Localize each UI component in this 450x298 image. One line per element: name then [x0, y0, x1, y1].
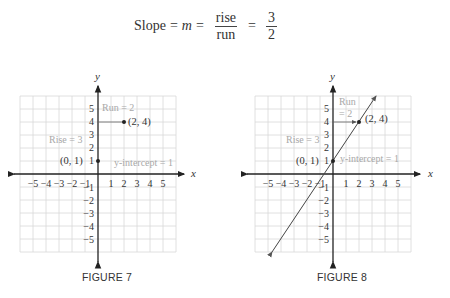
x-tick: 2	[357, 178, 362, 189]
y-tick: −5	[83, 234, 94, 245]
x-tick: 4	[148, 178, 153, 189]
run-label: Run = 2	[102, 102, 134, 113]
point-0-1	[331, 159, 335, 163]
point-2-4-label: (2, 4)	[365, 113, 388, 125]
x-tick: −3	[289, 178, 300, 189]
x-tick: −5	[28, 178, 39, 189]
x-tick: 1	[344, 178, 349, 189]
figure-8-caption: FIGURE 8	[317, 271, 367, 283]
run-label-line1: Run	[339, 96, 356, 107]
y-tick: 1	[324, 155, 329, 166]
x-tick: −3	[54, 178, 65, 189]
figure-7-caption: FIGURE 7	[82, 271, 132, 283]
y-intercept-label: y-intercept = 1	[114, 157, 173, 168]
y-tick: −2	[318, 195, 329, 206]
y-tick: −3	[83, 208, 94, 219]
y-tick: −4	[318, 221, 329, 232]
point-2-4	[122, 120, 126, 124]
y-tick: 4	[89, 116, 94, 127]
y-tick: 2	[89, 142, 94, 153]
y-axis-label: y	[94, 70, 100, 82]
point-2-4	[357, 120, 361, 124]
x-tick: −5	[263, 178, 274, 189]
x-tick: −2	[67, 178, 78, 189]
x-tick: 5	[396, 178, 401, 189]
x-tick: −2	[302, 178, 313, 189]
y-tick: −2	[83, 195, 94, 206]
rise-label: Rise = 3	[49, 134, 82, 145]
figure-7: x y −5 −4 −3 −2 −1 1 2 3 4 5 5 4 3 2 1 −…	[14, 70, 196, 262]
x-tick: 1	[109, 178, 114, 189]
point-0-1	[96, 159, 100, 163]
x-tick: −4	[41, 178, 52, 189]
y-tick: 1	[89, 155, 94, 166]
y-tick: 4	[324, 116, 329, 127]
x-axis-label: x	[427, 167, 433, 179]
point-0-1-label: (0, 1)	[296, 155, 319, 167]
x-tick: 3	[135, 178, 140, 189]
y-tick: −1	[318, 182, 329, 193]
point-0-1-label: (0, 1)	[60, 155, 83, 167]
y-tick: −4	[83, 221, 94, 232]
x-tick: 2	[122, 178, 127, 189]
y-tick: 5	[89, 103, 94, 114]
y-intercept-label: y-intercept = 1	[340, 153, 399, 164]
x-tick: 3	[370, 178, 375, 189]
run-label-line2: = 2	[339, 108, 352, 119]
y-axis-label: y	[329, 70, 335, 82]
y-tick: −3	[318, 208, 329, 219]
rise-label: Rise = 3	[286, 134, 319, 145]
y-tick: 5	[324, 103, 329, 114]
y-tick: 2	[324, 142, 329, 153]
x-axis-label: x	[190, 167, 196, 179]
figure-8: x y −5 −4 −3 −2 −1 1 2 3 4 5 5 4 3 2 1 −…	[247, 70, 433, 262]
x-tick: 5	[161, 178, 166, 189]
y-tick: 3	[324, 129, 329, 140]
y-tick: −5	[318, 234, 329, 245]
y-tick: 3	[89, 129, 94, 140]
x-tick: −4	[276, 178, 287, 189]
y-tick: −1	[83, 182, 94, 193]
point-2-4-label: (2, 4)	[128, 116, 151, 128]
x-tick: 4	[383, 178, 388, 189]
